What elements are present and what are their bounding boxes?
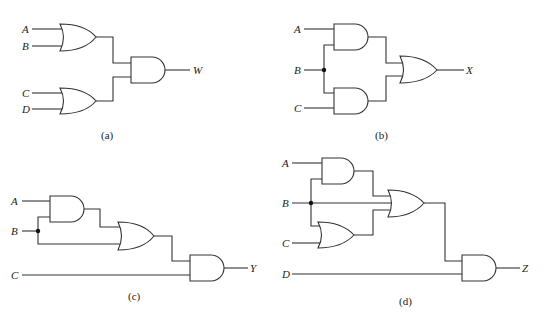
input-label-c: C: [282, 237, 290, 249]
or-gate: [60, 88, 96, 114]
caption-c: (c): [128, 290, 141, 303]
and-gate: [190, 255, 224, 281]
output-label-z: Z: [522, 262, 529, 274]
input-label-b: B: [282, 197, 289, 209]
input-label-b: B: [22, 40, 29, 52]
junction-dot: [322, 68, 326, 72]
input-label-c: C: [11, 269, 19, 281]
input-label-d: D: [21, 103, 30, 115]
circuit-d: A B C D Z (d): [281, 157, 529, 308]
circuit-a: A B C D W (a): [21, 23, 203, 142]
caption-b: (b): [375, 129, 388, 142]
and-gate: [334, 24, 368, 50]
or-gate: [400, 56, 437, 83]
output-label-w: W: [193, 64, 203, 76]
junction-dot: [309, 201, 313, 205]
output-label-y: Y: [250, 262, 258, 274]
output-label-x: X: [465, 64, 474, 76]
and-gate: [322, 158, 354, 184]
junction-dot: [36, 229, 40, 233]
input-label-c: C: [294, 102, 302, 114]
input-label-d: D: [281, 268, 290, 280]
and-gate: [131, 57, 165, 83]
caption-a: (a): [101, 129, 114, 142]
input-label-b: B: [294, 64, 301, 76]
input-label-b: B: [11, 225, 18, 237]
and-gate: [334, 88, 368, 114]
or-gate: [118, 222, 154, 250]
input-label-a: A: [21, 23, 29, 35]
or-gate: [60, 24, 96, 51]
or-gate: [318, 222, 354, 248]
caption-d: (d): [399, 295, 412, 308]
input-label-a: A: [281, 157, 289, 169]
circuit-c: A B C Y (c): [10, 195, 258, 303]
input-label-a: A: [293, 23, 301, 35]
and-gate: [462, 255, 496, 281]
logic-circuits-figure: A B C D W (a) A B C X (b): [0, 0, 548, 321]
input-label-c: C: [22, 87, 30, 99]
or-gate: [388, 190, 424, 217]
input-label-a: A: [10, 195, 18, 207]
circuit-b: A B C X (b): [293, 23, 474, 142]
and-gate: [50, 196, 84, 222]
